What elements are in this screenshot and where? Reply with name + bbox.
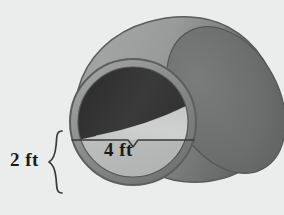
cylinder-figure: 4 ft 2 ft <box>0 0 284 215</box>
cylinder-illustration <box>0 0 284 215</box>
diameter-label: 4 ft <box>104 140 133 159</box>
depth-label: 2 ft <box>10 150 39 169</box>
depth-brace <box>49 131 62 193</box>
